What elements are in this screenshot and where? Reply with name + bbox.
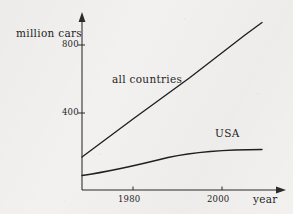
y-tick-label-800: 800 <box>62 40 79 49</box>
series-label-usa: USA <box>215 128 240 139</box>
series-line-usa <box>82 150 262 176</box>
series-label-all-countries: all countries <box>112 74 182 85</box>
x-tick-label-2000: 2000 <box>207 195 229 204</box>
y-tick-label-400: 400 <box>62 108 79 117</box>
x-tick-label-1980: 1980 <box>118 195 140 204</box>
y-axis-title: million cars <box>16 28 82 39</box>
y-axis-arrow-icon <box>79 12 86 22</box>
line-chart-figure: million cars year 800 400 1980 2000 all … <box>0 0 293 214</box>
x-axis-title: year <box>253 194 278 205</box>
